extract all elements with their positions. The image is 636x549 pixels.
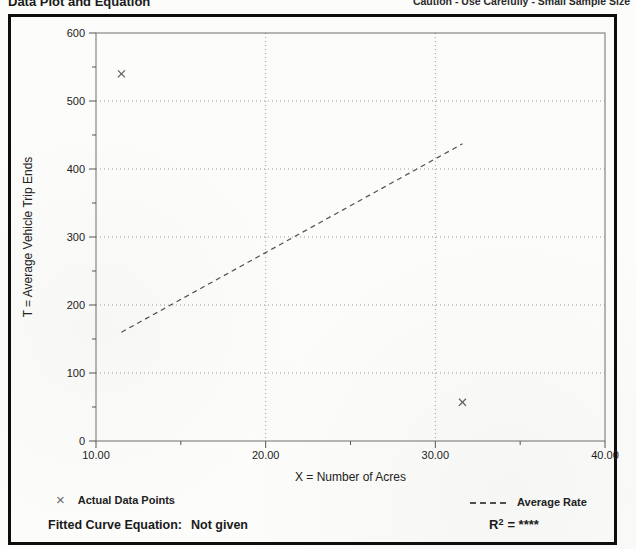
fitted-curve-equation: Fitted Curve Equation: Not given [48, 518, 248, 532]
legend-line-label: Average Rate [517, 496, 587, 508]
equation-label: Fitted Curve Equation: [48, 518, 182, 532]
svg-text:400: 400 [67, 163, 85, 175]
legend-actual-data-points: × Actual Data Points [56, 494, 175, 506]
svg-text:600: 600 [67, 27, 85, 39]
legend-points-label: Actual Data Points [78, 494, 175, 506]
svg-text:100: 100 [67, 367, 85, 379]
scatter-plot: 010020030040050060010.0020.0030.0040.00 [0, 0, 636, 549]
svg-text:300: 300 [67, 231, 85, 243]
svg-text:0: 0 [79, 435, 85, 447]
r2-exponent: 2 [498, 517, 503, 527]
r-squared-value: R 2 = **** [489, 517, 539, 532]
x-axis-title: X = Number of Acres [96, 470, 605, 484]
y-axis-title: T = Average Vehicle Trip Ends [21, 157, 35, 318]
x-marker-icon: × [56, 494, 65, 506]
svg-text:20.00: 20.00 [252, 449, 280, 461]
svg-text:30.00: 30.00 [422, 449, 450, 461]
legend-average-rate: Average Rate [470, 496, 587, 508]
svg-text:500: 500 [67, 95, 85, 107]
r2-rest: = **** [507, 517, 538, 532]
equation-value: Not given [191, 518, 248, 532]
svg-text:10.00: 10.00 [82, 449, 110, 461]
svg-text:40.00: 40.00 [591, 449, 619, 461]
dashed-line-icon [470, 502, 506, 504]
svg-text:200: 200 [67, 299, 85, 311]
r2-base: R [489, 517, 498, 532]
report-page: Data Plot and Equation Caution - Use Car… [0, 0, 636, 549]
